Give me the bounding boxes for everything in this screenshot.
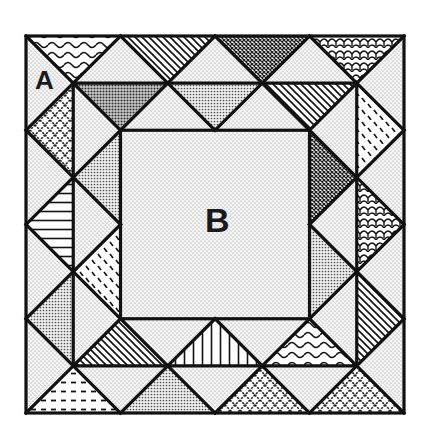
- label-a: A: [35, 65, 54, 95]
- quilt-diagram: A B: [0, 0, 428, 439]
- label-b: B: [205, 201, 230, 239]
